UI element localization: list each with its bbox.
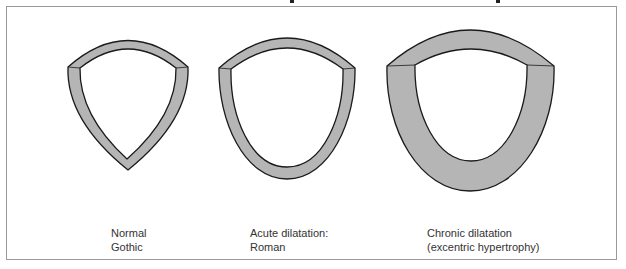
normal-gothic-ventricle-shape xyxy=(68,41,188,171)
chronic-dilatation-ventricle-shape xyxy=(387,30,554,191)
cropped-title-fragment xyxy=(290,0,294,3)
caption-line: Acute dilatation: xyxy=(250,226,328,240)
caption-line: Normal xyxy=(111,226,146,240)
normal-gothic-caption: Normal Gothic xyxy=(111,226,146,254)
cropped-title-fragment xyxy=(496,0,500,3)
acute-dilatation-caption: Acute dilatation: Roman xyxy=(250,226,328,254)
chronic-dilatation-caption: Chronic dilatation (excentric hypertroph… xyxy=(427,226,540,254)
caption-line: Chronic dilatation xyxy=(427,226,540,240)
acute-dilatation-roman-ventricle-shape xyxy=(219,38,355,179)
caption-line: (excentric hypertrophy) xyxy=(427,240,540,254)
caption-line: Roman xyxy=(250,240,328,254)
caption-line: Gothic xyxy=(111,240,146,254)
